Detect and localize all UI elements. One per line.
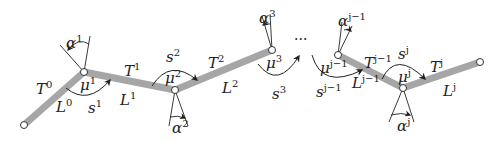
label-L0: L0: [55, 97, 72, 116]
label-mu-j-1: μj−1: [320, 58, 348, 77]
label-alpha1: α1: [66, 33, 83, 52]
alpha-labels: α1 α2 α3 αj−1 αj: [66, 8, 410, 137]
label-mu2: μ2: [165, 68, 181, 87]
label-Tj-1: Tj−1: [364, 53, 392, 72]
joint-mu2: [172, 87, 179, 94]
label-s2: s2: [166, 47, 180, 66]
label-s-j: sj: [398, 44, 409, 63]
label-s-j-1: sj−1: [316, 82, 342, 101]
joint-mu3: [269, 47, 276, 54]
start-joint: [21, 122, 28, 129]
label-T0: T0: [36, 79, 52, 98]
label-T1: T1: [124, 61, 140, 80]
label-mu3: μ3: [266, 53, 282, 72]
label-mu1: μ1: [80, 75, 96, 94]
end-joint: [477, 59, 484, 66]
joint-mu1: [81, 69, 88, 76]
label-Lj: Lj: [442, 81, 456, 100]
link-0: [24, 72, 84, 125]
linkage-diagram: ··· T0 L0 T1 L1 T2 L2 Tj−1 Lj−1 Tj Lj μ1…: [0, 0, 504, 141]
label-s1: s1: [88, 98, 102, 117]
label-s3: s3: [272, 84, 286, 103]
ellipsis: ···: [294, 31, 307, 47]
label-alpha2: α2: [172, 118, 189, 137]
label-L2: L2: [221, 78, 238, 97]
label-alpha-j: αj: [397, 116, 410, 135]
label-Lj-1: Lj−1: [351, 73, 380, 92]
label-alpha3: α3: [259, 8, 276, 27]
label-L1: L1: [119, 90, 136, 109]
label-alpha-j-1: αj−1: [338, 11, 366, 30]
